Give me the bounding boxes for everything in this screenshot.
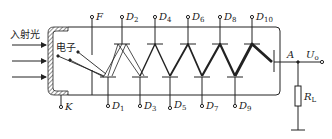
incident-light-label: 入射光 [10, 28, 40, 40]
svg-text:D1: D1 [111, 100, 125, 113]
cathode-label: K [64, 101, 73, 112]
incident-light-arrows [12, 45, 46, 77]
svg-text:D2: D2 [125, 11, 139, 24]
svg-text:D9: D9 [238, 100, 252, 113]
focus-label: F [95, 11, 104, 22]
bottom-dynode-labels: D1 D3 D5 D7 D9 [111, 99, 252, 113]
electron-paths [57, 51, 106, 77]
load-resistor [295, 62, 301, 130]
photomultiplier-diagram: 入射光 电子 F K D2 D4 D6 D8 D10 [0, 0, 332, 139]
svg-text:D3: D3 [143, 100, 157, 113]
cathode-terminal [59, 95, 62, 109]
photocathode [48, 27, 68, 95]
output-voltage-label: Uo [306, 49, 319, 62]
load-resistor-label: RL [303, 91, 317, 104]
svg-text:D7: D7 [205, 100, 219, 113]
anode-label: A [286, 49, 294, 60]
electron-cascade [104, 44, 272, 76]
electron-label: 电子 [56, 41, 76, 53]
svg-text:D6: D6 [191, 11, 205, 24]
svg-text:D4: D4 [158, 11, 172, 24]
tube-envelope [68, 27, 280, 95]
svg-text:D5: D5 [173, 99, 187, 112]
svg-text:D8: D8 [223, 11, 237, 24]
svg-text:D10: D10 [255, 11, 273, 24]
